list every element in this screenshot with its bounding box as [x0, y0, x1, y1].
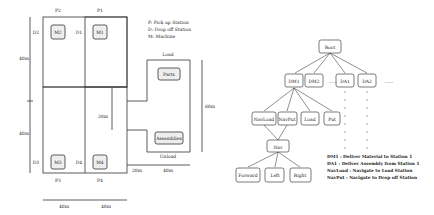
svg-text:M4: M4	[96, 160, 104, 165]
svg-text:DM2: DM2	[308, 79, 319, 84]
svg-text:40m: 40m	[19, 131, 30, 136]
svg-text:Forward: Forward	[238, 173, 257, 178]
svg-text:20m: 20m	[98, 114, 109, 119]
label-m2: M2	[54, 30, 62, 35]
svg-text:DA2: DA2	[362, 79, 372, 84]
svg-text:DA1: DA1	[340, 79, 350, 84]
svg-text:......: ......	[329, 79, 338, 84]
svg-text:Put: Put	[328, 117, 336, 122]
svg-text:Parts: Parts	[163, 72, 175, 77]
svg-text:NavPut: NavPut	[279, 117, 296, 122]
svg-text:Unload: Unload	[160, 154, 177, 159]
svg-text:20m: 20m	[132, 168, 143, 173]
svg-text:NavPut : Navigate to Drop off: NavPut : Navigate to Drop off Station	[327, 175, 418, 180]
svg-text:Load: Load	[304, 117, 315, 122]
svg-text:P4: P4	[97, 178, 103, 183]
svg-text:M1: M1	[96, 30, 104, 35]
svg-text:......: ......	[385, 79, 394, 84]
diagram-canvas: M2 M1 M3 M4 P2 P1 P3 P4 D2 D1 D3 D4 Part…	[0, 0, 434, 215]
svg-text:40m: 40m	[163, 168, 174, 173]
svg-text:P2: P2	[55, 8, 61, 13]
svg-text:DM1 : Deliver Material to Stat: DM1 : Deliver Material to Station 1	[327, 154, 412, 159]
svg-text:M: Machine: M: Machine	[148, 34, 176, 39]
svg-text:D3: D3	[33, 160, 40, 165]
svg-text:D1: D1	[76, 30, 83, 35]
svg-text:60m: 60m	[205, 104, 216, 109]
svg-text:D2: D2	[33, 30, 40, 35]
svg-text:Nav: Nav	[273, 145, 283, 150]
svg-text:DM1: DM1	[288, 79, 299, 84]
svg-text:NavLoad: NavLoad	[254, 117, 275, 122]
svg-text:Left: Left	[270, 173, 279, 178]
svg-text:Load: Load	[162, 52, 173, 57]
svg-text:40m: 40m	[101, 204, 112, 209]
svg-text:P1: P1	[97, 8, 103, 13]
svg-text:40m: 40m	[59, 204, 70, 209]
svg-text:NavLoad : Navigate to Load Sta: NavLoad : Navigate to Load Station	[327, 168, 413, 173]
svg-text:DA1 : Deliver Assembly from St: DA1 : Deliver Assembly from Station 1	[327, 161, 419, 166]
svg-text:Root: Root	[325, 45, 336, 50]
svg-text:Right: Right	[294, 173, 307, 178]
svg-text:P3: P3	[55, 178, 61, 183]
svg-text:40m: 40m	[19, 56, 30, 61]
svg-text:M3: M3	[54, 160, 62, 165]
svg-text:D: Drop off Station: D: Drop off Station	[148, 27, 191, 32]
svg-text:Assemblies: Assemblies	[155, 136, 182, 141]
svg-text:D4: D4	[76, 160, 83, 165]
svg-text:P: Pick up Station: P: Pick up Station	[148, 20, 189, 25]
